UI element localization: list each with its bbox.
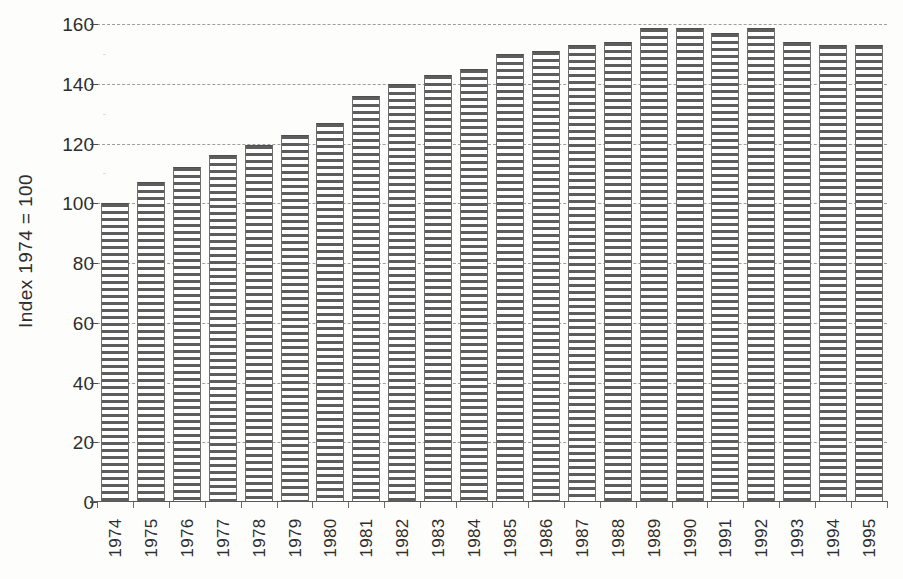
bar-1980[interactable] — [316, 123, 344, 502]
x-tickmark-1992 — [743, 501, 744, 508]
plot-area — [97, 24, 887, 502]
x-tick-label-1981: 1981 — [352, 508, 380, 574]
x-tick-label-text: 1990 — [681, 518, 698, 557]
x-tick-label-text: 1986 — [537, 518, 554, 557]
x-tickmark-1985 — [492, 501, 493, 508]
x-tick-label-1989: 1989 — [640, 508, 668, 574]
bar-1994[interactable] — [819, 45, 847, 502]
x-tick-label-text: 1980 — [322, 518, 339, 557]
x-tick-label-1979: 1979 — [281, 508, 309, 574]
y-axis-tick-labels: 160140120100806040200 — [44, 0, 94, 520]
y-axis-title-text: Index 1974 = 100 — [15, 174, 37, 328]
x-tickmark-1984 — [456, 501, 457, 508]
bar-1990[interactable] — [676, 28, 704, 502]
x-tick-label-1977: 1977 — [209, 508, 237, 574]
x-tickmark-1986 — [528, 501, 529, 508]
x-tick-label-text: 1977 — [214, 518, 231, 557]
x-tickmark-1990 — [672, 501, 673, 508]
bar-1982[interactable] — [388, 84, 416, 502]
y-tick-label-60: 60 — [48, 313, 94, 332]
x-tick-label-1974: 1974 — [101, 508, 129, 574]
x-tick-label-text: 1993 — [789, 518, 806, 557]
x-tick-label-1984: 1984 — [460, 508, 488, 574]
x-tick-label-1987: 1987 — [568, 508, 596, 574]
x-tickmark-1991 — [707, 501, 708, 508]
x-tick-label-text: 1994 — [825, 518, 842, 557]
x-tickmark-1993 — [779, 501, 780, 508]
x-tick-label-1975: 1975 — [137, 508, 165, 574]
y-tick-label-20: 20 — [48, 433, 94, 452]
x-tick-label-1995: 1995 — [855, 508, 883, 574]
x-tick-label-text: 1975 — [142, 518, 159, 557]
x-tick-label-text: 1985 — [501, 518, 518, 557]
x-tick-label-text: 1982 — [394, 518, 411, 557]
y-tick-label-100: 100 — [48, 194, 94, 213]
x-tickmark-1978 — [241, 501, 242, 508]
x-tickmark-1989 — [636, 501, 637, 508]
x-tick-label-1985: 1985 — [496, 508, 524, 574]
x-tick-label-1976: 1976 — [173, 508, 201, 574]
x-tick-label-1986: 1986 — [532, 508, 560, 574]
x-tick-label-1983: 1983 — [424, 508, 452, 574]
x-tick-label-1982: 1982 — [388, 508, 416, 574]
bar-1981[interactable] — [352, 96, 380, 502]
x-tick-label-1978: 1978 — [245, 508, 273, 574]
bar-1991[interactable] — [711, 33, 739, 502]
bar-series — [97, 24, 887, 502]
x-tick-label-text: 1983 — [430, 518, 447, 557]
y-tick-label-80: 80 — [48, 254, 94, 273]
x-tick-label-1992: 1992 — [747, 508, 775, 574]
x-tick-label-1991: 1991 — [711, 508, 739, 574]
x-tickmark-end — [887, 501, 888, 508]
x-tick-label-1990: 1990 — [676, 508, 704, 574]
x-tickmark-1976 — [169, 501, 170, 508]
x-tick-label-text: 1978 — [250, 518, 267, 557]
y-tick-label-0: 0 — [48, 493, 94, 512]
x-tick-label-1988: 1988 — [604, 508, 632, 574]
x-tickmark-1988 — [600, 501, 601, 508]
bar-1987[interactable] — [568, 45, 596, 502]
bar-1977[interactable] — [209, 155, 237, 502]
y-tick-label-120: 120 — [48, 134, 94, 153]
bar-1974[interactable] — [101, 203, 129, 502]
x-axis-line — [90, 501, 887, 502]
x-tickmark-1995 — [851, 501, 852, 508]
x-axis-tick-labels: 1974197519761977197819791980198119821983… — [97, 508, 887, 578]
bar-1978[interactable] — [245, 145, 273, 502]
x-tickmark-1983 — [420, 501, 421, 508]
x-tickmark-1987 — [564, 501, 565, 508]
bar-1983[interactable] — [424, 75, 452, 502]
bar-1984[interactable] — [460, 69, 488, 502]
bar-1986[interactable] — [532, 51, 560, 502]
bar-1985[interactable] — [496, 54, 524, 502]
bar-1993[interactable] — [783, 42, 811, 502]
x-tickmark-1982 — [384, 501, 385, 508]
x-tick-label-text: 1995 — [861, 518, 878, 557]
bar-1995[interactable] — [855, 45, 883, 502]
x-tickmark-1994 — [815, 501, 816, 508]
bar-1976[interactable] — [173, 167, 201, 502]
x-tick-label-text: 1974 — [106, 518, 123, 557]
y-tick-label-40: 40 — [48, 373, 94, 392]
x-tick-label-text: 1976 — [178, 518, 195, 557]
x-tick-label-text: 1979 — [286, 518, 303, 557]
bar-1992[interactable] — [747, 28, 775, 502]
x-tick-label-text: 1988 — [609, 518, 626, 557]
x-tickmark-1980 — [312, 501, 313, 508]
y-tick-label-140: 140 — [48, 74, 94, 93]
bar-1975[interactable] — [137, 182, 165, 502]
bar-1989[interactable] — [640, 28, 668, 502]
x-tick-label-text: 1981 — [358, 518, 375, 557]
x-tickmark-1981 — [348, 501, 349, 508]
x-tick-label-text: 1987 — [573, 518, 590, 557]
bar-1988[interactable] — [604, 42, 632, 502]
x-tickmark-1975 — [133, 501, 134, 508]
x-tick-label-text: 1989 — [645, 518, 662, 557]
x-tickmark-1977 — [205, 501, 206, 508]
x-tick-label-text: 1992 — [753, 518, 770, 557]
x-tickmark-1979 — [277, 501, 278, 508]
bar-chart: Index 1974 = 100 160140120100806040200 1… — [0, 0, 903, 579]
x-tick-label-text: 1984 — [466, 518, 483, 557]
x-tick-label-1994: 1994 — [819, 508, 847, 574]
bar-1979[interactable] — [281, 135, 309, 502]
